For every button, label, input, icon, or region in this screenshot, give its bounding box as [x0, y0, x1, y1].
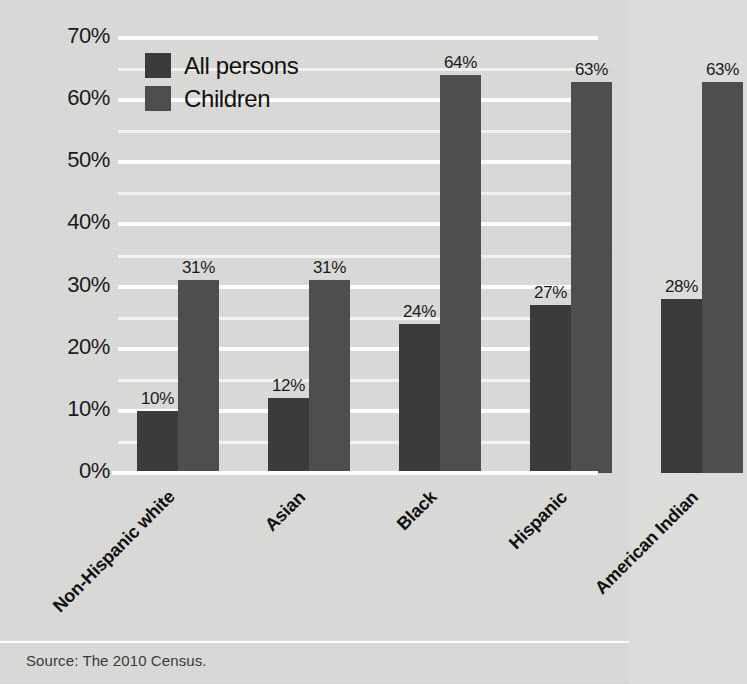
bar: [702, 82, 743, 474]
legend-item-all-persons[interactable]: All persons: [145, 50, 375, 81]
gridline-minor: [118, 130, 598, 133]
x-axis-category-label: Asian: [261, 487, 310, 536]
bar: [399, 324, 440, 473]
bar-value-label: 28%: [655, 277, 708, 297]
x-axis-category-label: Hispanic: [505, 487, 572, 554]
x-axis-category-label: American Indian: [591, 487, 703, 599]
y-axis-tick-label: 0%: [40, 458, 110, 484]
y-axis-tick-label: 70%: [40, 23, 110, 49]
bar: [137, 411, 178, 473]
bar-value-label: 64%: [434, 53, 487, 73]
gridline-major: [118, 36, 598, 40]
y-axis-tick-label: 40%: [40, 209, 110, 235]
source-divider: [0, 641, 629, 643]
x-axis-category-label: Non-Hispanic white: [49, 487, 179, 617]
y-axis-tick-label: 20%: [40, 334, 110, 360]
gridline-minor: [118, 255, 598, 258]
bar-value-label: 12%: [262, 376, 315, 396]
axis-baseline: [112, 471, 598, 475]
legend-swatch-children: [145, 86, 171, 111]
bar: [309, 280, 350, 473]
bar-value-label: 63%: [565, 60, 618, 80]
bar: [268, 398, 309, 473]
bar-value-label: 10%: [131, 389, 184, 409]
y-axis-tick-label: 30%: [40, 272, 110, 298]
gridline-minor: [118, 192, 598, 195]
legend-item-children[interactable]: Children: [145, 83, 375, 114]
x-axis-category-label: Black: [393, 487, 441, 535]
bar: [571, 82, 612, 474]
y-axis-tick-label: 50%: [40, 147, 110, 173]
bar: [440, 75, 481, 473]
legend-label-all-persons: All persons: [184, 52, 298, 80]
y-axis-tick-label: 60%: [40, 85, 110, 111]
legend-swatch-all-persons: [145, 53, 171, 78]
bar-value-label: 31%: [303, 258, 356, 278]
bar-value-label: 63%: [696, 60, 747, 80]
bar-value-label: 24%: [393, 302, 446, 322]
source-note: Source: The 2010 Census.: [26, 652, 207, 669]
bar: [530, 305, 571, 473]
legend: All persons Children: [145, 50, 375, 116]
gridline-major: [118, 222, 598, 226]
bar-value-label: 27%: [524, 283, 577, 303]
bar-value-label: 31%: [172, 258, 225, 278]
bar: [178, 280, 219, 473]
bar: [661, 299, 702, 473]
legend-label-children: Children: [184, 85, 270, 113]
y-axis-tick-label: 10%: [40, 396, 110, 422]
gridline-major: [118, 160, 598, 164]
